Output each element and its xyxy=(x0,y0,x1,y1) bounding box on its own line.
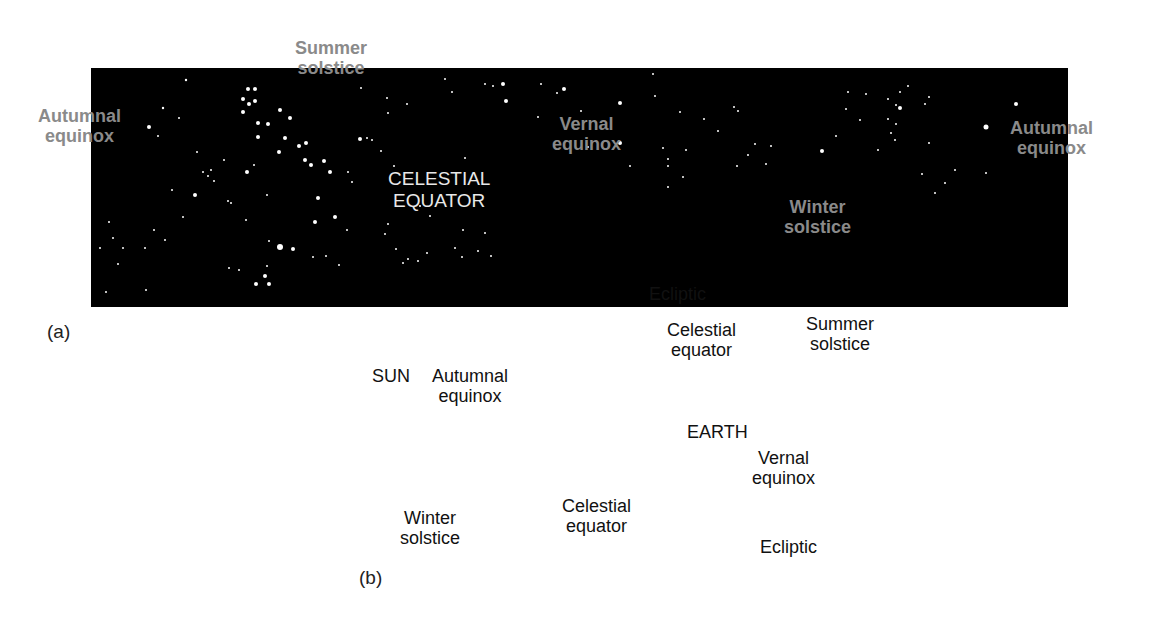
label-autumnal-equinox-left: Autumnal equinox xyxy=(38,106,121,146)
label-winter-solstice-sky: Winter solstice xyxy=(784,197,851,237)
star-field-panel xyxy=(91,68,1068,307)
celestial-sphere-figure: Autumnal equinox Summer solstice Vernal … xyxy=(0,0,1160,618)
panel-label-a: (a) xyxy=(47,321,70,342)
label-celestial-equator-front: Celestial equator xyxy=(562,496,631,536)
label-vernal-equinox-band: Vernal equinox xyxy=(752,448,815,488)
label-autumnal-equinox-right: Autumnal equinox xyxy=(1010,118,1093,158)
label-summer-solstice-sky: Summer solstice xyxy=(295,38,367,78)
panel-label-b: (b) xyxy=(359,567,382,588)
label-sun: SUN xyxy=(372,366,410,386)
label-celestial-equator-sky: CELESTIAL EQUATOR xyxy=(388,168,490,213)
label-celestial-equator-back: Celestial equator xyxy=(667,320,736,360)
label-earth: EARTH xyxy=(687,422,748,442)
label-summer-solstice-band: Summer solstice xyxy=(806,314,874,354)
label-ecliptic-bottom: Ecliptic xyxy=(760,537,817,557)
label-ecliptic-top: Ecliptic xyxy=(649,284,706,304)
label-vernal-equinox-sky: Vernal equinox xyxy=(552,114,621,154)
label-autumnal-equinox-band: Autumnal equinox xyxy=(432,366,508,406)
label-winter-solstice-band: Winter solstice xyxy=(400,508,460,548)
